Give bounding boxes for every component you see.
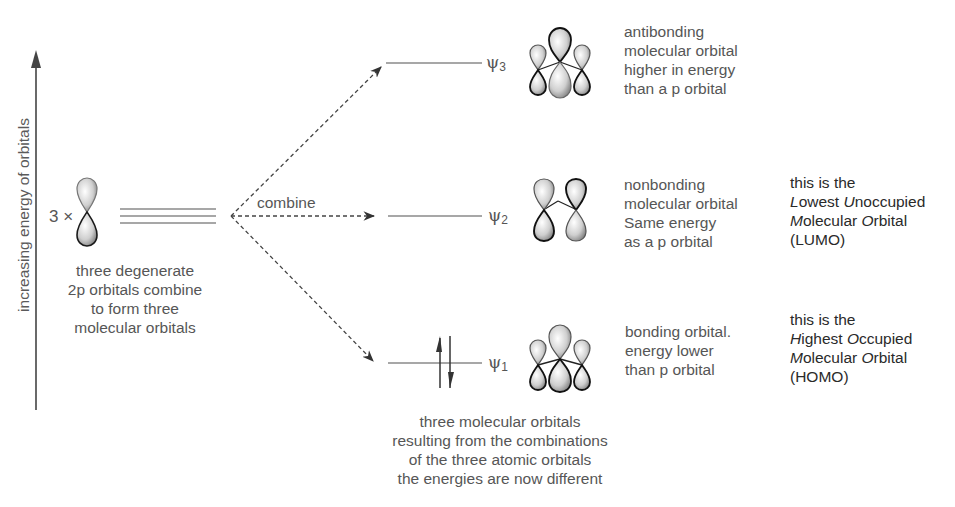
description-line: molecular orbital bbox=[624, 194, 738, 213]
annotation-line: Molecular Orbital bbox=[790, 211, 925, 230]
molecular-orbitals-caption: three molecular orbitals resulting from … bbox=[360, 412, 640, 488]
description-line: antibonding bbox=[624, 22, 738, 41]
caption-line: 2p orbitals combine bbox=[40, 280, 230, 299]
combine-arrows bbox=[231, 67, 381, 361]
psi2-orbital-icon bbox=[534, 179, 586, 241]
psi1-orbital-icon bbox=[530, 325, 590, 392]
annotation-line: (HOMO) bbox=[790, 367, 912, 386]
description-line: energy lower bbox=[625, 341, 731, 360]
description-line: than p orbital bbox=[625, 360, 731, 379]
caption-line: three degenerate bbox=[40, 261, 230, 280]
description-line: higher in energy bbox=[624, 60, 738, 79]
electron-pair-icon bbox=[436, 336, 454, 388]
lumo-annotation: this is the Lowest Unoccupied Molecular … bbox=[790, 173, 925, 249]
caption-line: resulting from the combinations bbox=[360, 431, 640, 450]
psi3-orbital-icon bbox=[530, 28, 590, 98]
annotation-line: this is the bbox=[790, 173, 925, 192]
annotation-line: Highest Occupied bbox=[790, 329, 912, 348]
description-line: as a p orbital bbox=[624, 232, 738, 251]
homo-annotation: this is the Highest Occupied Molecular O… bbox=[790, 310, 912, 386]
caption-line: the energies are now different bbox=[360, 469, 640, 488]
annotation-line: Molecular Orbital bbox=[790, 348, 912, 367]
description-line: molecular orbital bbox=[624, 41, 738, 60]
psi2-label: ψ2 bbox=[488, 205, 508, 227]
mo-levels bbox=[386, 63, 482, 363]
psi2-description: nonbonding molecular orbital Same energy… bbox=[624, 175, 738, 251]
description-line: than a p orbital bbox=[624, 79, 738, 98]
degenerate-energy-levels bbox=[120, 209, 216, 223]
description-line: Same energy bbox=[624, 213, 738, 232]
annotation-line: Lowest Unoccupied bbox=[790, 192, 925, 211]
caption-line: to form three bbox=[40, 299, 230, 318]
caption-line: molecular orbitals bbox=[40, 318, 230, 337]
description-line: bonding orbital. bbox=[625, 322, 731, 341]
description-line: nonbonding bbox=[624, 175, 738, 194]
psi1-description: bonding orbital. energy lower than p orb… bbox=[625, 322, 731, 379]
psi3-description: antibonding molecular orbital higher in … bbox=[624, 22, 738, 98]
psi3-label: ψ3 bbox=[486, 52, 506, 74]
energy-axis-label: increasing energy of orbitals bbox=[15, 105, 35, 325]
orbital-multiplier: 3 × bbox=[49, 207, 73, 226]
caption-line: three molecular orbitals bbox=[360, 412, 640, 431]
atomic-orbitals-caption: three degenerate 2p orbitals combine to … bbox=[40, 261, 230, 337]
caption-line: of the three atomic orbitals bbox=[360, 450, 640, 469]
annotation-line: (LUMO) bbox=[790, 230, 925, 249]
psi1-label: ψ1 bbox=[488, 352, 508, 374]
combine-label: combine bbox=[257, 193, 316, 212]
atomic-p-orbital-icon bbox=[77, 178, 97, 246]
annotation-line: this is the bbox=[790, 310, 912, 329]
